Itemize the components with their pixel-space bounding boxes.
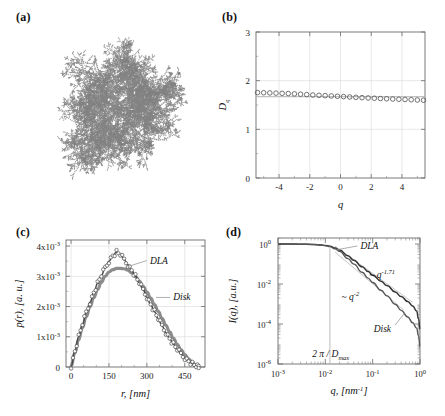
data-point bbox=[115, 248, 118, 251]
data-point bbox=[329, 94, 334, 99]
data-point bbox=[390, 97, 395, 102]
panel-a: (a) bbox=[0, 0, 222, 208]
data-point bbox=[149, 303, 152, 306]
data-point bbox=[323, 93, 328, 98]
figure-root: (a) (b) -4-20240123qDq (c) 015030045001x… bbox=[0, 0, 445, 416]
data-point bbox=[75, 344, 78, 347]
data-point bbox=[100, 275, 103, 278]
data-point bbox=[162, 329, 165, 332]
data-point bbox=[280, 91, 285, 96]
ytick-label-b: 3 bbox=[246, 28, 251, 38]
power-law-dla-label: ~ q-1.71 bbox=[369, 268, 395, 280]
data-point bbox=[179, 351, 182, 354]
data-point bbox=[160, 323, 163, 326]
data-point bbox=[136, 278, 139, 281]
ytick-label-c: 1x10-3 bbox=[37, 331, 60, 343]
yaxis-label-c: p(r), [a. u.] bbox=[13, 279, 25, 328]
data-point bbox=[191, 360, 194, 363]
panel-c-label: (c) bbox=[16, 225, 30, 240]
xtick-label-b: -4 bbox=[275, 182, 283, 192]
data-point bbox=[86, 307, 89, 310]
ytick-label-b: 0 bbox=[246, 174, 251, 184]
xaxis-label-d: q, [nm-1] bbox=[331, 385, 368, 397]
leader-disk-d bbox=[395, 313, 404, 325]
data-point bbox=[403, 97, 408, 102]
data-point bbox=[90, 295, 93, 298]
axis-ticks-b: -4-20240123 bbox=[246, 28, 426, 193]
xtick-label-d: 10-3 bbox=[271, 368, 285, 380]
leader-dla-c bbox=[129, 261, 147, 267]
ytick-label-b: 1 bbox=[246, 125, 251, 135]
data-point bbox=[158, 319, 161, 322]
axis-ticks-c: 015030045001x10-32x10-33x10-34x10-3 bbox=[37, 240, 205, 381]
xtick-label-c: 300 bbox=[140, 371, 154, 381]
ytick-label-c: 4x10-3 bbox=[37, 240, 60, 252]
xaxis-label-c: r, [nm] bbox=[121, 388, 150, 399]
data-point bbox=[298, 92, 303, 97]
data-point bbox=[130, 269, 133, 272]
data-point bbox=[360, 95, 365, 100]
data-point bbox=[354, 95, 359, 100]
data-point bbox=[286, 91, 291, 96]
panel-d: (d) 10-310-210-110010-610-410-2100DLADis… bbox=[220, 212, 445, 416]
leader-dla-d bbox=[337, 246, 358, 250]
disk-label-c: Disk bbox=[172, 292, 191, 302]
data-point bbox=[292, 92, 297, 97]
plot-frame-c bbox=[66, 240, 205, 367]
series-dla-d bbox=[278, 244, 420, 329]
data-point bbox=[71, 356, 74, 359]
data-point bbox=[174, 345, 177, 348]
dmax-label: 2 π / Dmax bbox=[312, 349, 349, 361]
data-point bbox=[139, 283, 142, 286]
xtick-label-b: 4 bbox=[400, 182, 405, 192]
data-point bbox=[94, 288, 97, 291]
data-point bbox=[81, 323, 84, 326]
xtick-label-b: 2 bbox=[369, 182, 374, 192]
data-point bbox=[121, 253, 124, 256]
data-point bbox=[79, 329, 82, 332]
data-point bbox=[88, 303, 91, 306]
chart-c-pr-vs-r: 015030045001x10-32x10-33x10-34x10-3DLADi… bbox=[0, 212, 225, 416]
ytick-label-c: 2x10-3 bbox=[37, 301, 60, 313]
ytick-label-c: 0 bbox=[56, 363, 61, 373]
fractal-point-mass bbox=[57, 37, 187, 179]
data-point bbox=[141, 287, 144, 290]
ytick-label-d: 10-4 bbox=[257, 318, 272, 330]
panel-b: (b) -4-20240123qDq bbox=[210, 0, 445, 212]
xtick-label-c: 450 bbox=[178, 371, 192, 381]
data-point bbox=[187, 360, 190, 363]
data-point bbox=[122, 257, 125, 260]
dla-label-c: DLA bbox=[149, 256, 168, 266]
data-point bbox=[134, 272, 137, 275]
ytick-label-d: 10-2 bbox=[257, 278, 271, 290]
grid-lines bbox=[256, 32, 425, 178]
panel-b-label: (b) bbox=[222, 10, 237, 25]
data-point bbox=[147, 298, 150, 301]
data-point bbox=[261, 90, 266, 95]
panel-c: (c) 015030045001x10-32x10-33x10-34x10-3D… bbox=[0, 212, 225, 416]
data-point bbox=[143, 293, 146, 296]
ytick-label-c: 3x10-3 bbox=[37, 270, 60, 282]
ytick-label-b: 2 bbox=[246, 76, 251, 86]
data-point bbox=[77, 333, 80, 336]
data-point bbox=[166, 333, 169, 336]
data-point bbox=[397, 97, 402, 102]
cluster-points bbox=[57, 37, 187, 179]
data-point bbox=[415, 98, 420, 103]
data-point bbox=[268, 91, 273, 96]
data-point bbox=[155, 314, 158, 317]
chart-d-iq-vs-q: 10-310-210-110010-610-410-2100DLADisk~ q… bbox=[220, 212, 445, 416]
data-point bbox=[409, 97, 414, 102]
dla-label-d: DLA bbox=[359, 241, 378, 251]
xtick-label-c: 0 bbox=[69, 371, 74, 381]
data-point bbox=[83, 315, 86, 318]
yaxis-label-b: Dq bbox=[217, 99, 230, 112]
data-point bbox=[172, 341, 175, 344]
disk-label-d: Disk bbox=[373, 324, 392, 334]
xtick-label-d: 100 bbox=[414, 368, 426, 380]
series-dla-markers-c bbox=[69, 248, 200, 370]
power-law-disk-label: ~ q-2 bbox=[342, 290, 360, 302]
data-point bbox=[274, 91, 279, 96]
panel-d-label: (d) bbox=[226, 225, 241, 240]
data-point bbox=[197, 366, 200, 369]
